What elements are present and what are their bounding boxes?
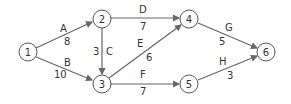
node-5-label: 5 bbox=[186, 79, 192, 90]
edge-D-name: D bbox=[139, 4, 147, 15]
edge-F-name: F bbox=[140, 69, 146, 80]
node-1-label: 1 bbox=[25, 47, 31, 58]
edge-D-weight: 7 bbox=[140, 21, 146, 32]
edge-G-name: G bbox=[225, 22, 233, 33]
network-diagram: A 8 B 10 3 C D 7 E 6 F 7 G 5 H 3 1 2 3 4… bbox=[0, 0, 291, 104]
edge-E-weight: 6 bbox=[146, 52, 152, 63]
edge-F-weight: 7 bbox=[140, 86, 146, 97]
node-3-label: 3 bbox=[99, 79, 105, 90]
edge-A-weight: 8 bbox=[64, 36, 70, 47]
edge-E-name: E bbox=[137, 38, 143, 49]
edge-B-weight: 10 bbox=[54, 69, 67, 80]
edge-C-name: C bbox=[106, 46, 113, 57]
diagram-canvas: A 8 B 10 3 C D 7 E 6 F 7 G 5 H 3 1 2 3 4… bbox=[0, 0, 291, 104]
node-6-label: 6 bbox=[263, 47, 269, 58]
edge-H-weight: 3 bbox=[227, 70, 233, 81]
edge-H-name: H bbox=[219, 56, 227, 67]
node-2-label: 2 bbox=[99, 14, 105, 25]
edge-B-name: B bbox=[64, 57, 71, 68]
edge-C-weight: 3 bbox=[93, 46, 99, 57]
edge-G-weight: 5 bbox=[219, 36, 225, 47]
node-4-label: 4 bbox=[186, 14, 192, 25]
edge-A-name: A bbox=[60, 23, 67, 34]
